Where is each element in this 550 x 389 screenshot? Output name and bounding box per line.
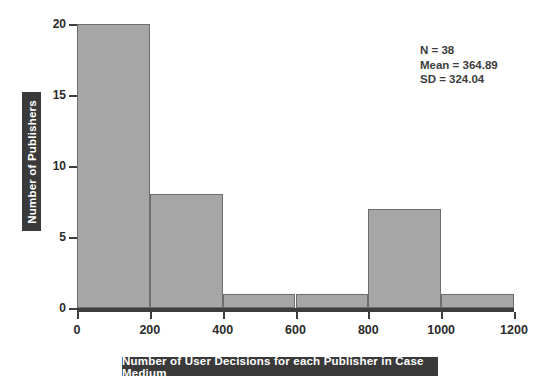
- y-tick-mark: [69, 166, 77, 168]
- x-axis-title: Number of User Decisions for each Publis…: [122, 357, 438, 376]
- x-tick-mark: [150, 312, 152, 319]
- x-tick-mark: [223, 312, 225, 319]
- y-axis-title: Number of Publishers: [22, 92, 41, 231]
- x-tick-label: 800: [358, 323, 379, 337]
- x-tick-mark: [77, 312, 79, 319]
- x-tick-label: 1200: [500, 323, 528, 337]
- x-tick-mark: [368, 312, 370, 319]
- stat-mean: Mean = 364.89: [420, 58, 498, 73]
- y-tick-mark: [69, 308, 77, 310]
- x-tick-label: 0: [74, 323, 81, 337]
- x-tick-mark: [514, 312, 516, 319]
- x-tick-label: 1000: [427, 323, 455, 337]
- y-tick-mark: [69, 95, 77, 97]
- y-tick-label: 10: [53, 159, 66, 173]
- y-tick-label: 20: [53, 17, 66, 31]
- y-tick-label: 0: [59, 301, 66, 315]
- histogram-bar: [368, 209, 441, 308]
- y-axis-title-text: Number of Publishers: [26, 100, 38, 224]
- y-tick-mark: [69, 237, 77, 239]
- x-tick-mark: [296, 312, 298, 319]
- stat-n: N = 38: [420, 43, 498, 58]
- stats-annotation: N = 38 Mean = 364.89 SD = 324.04: [420, 43, 498, 87]
- y-tick-label: 15: [53, 88, 66, 102]
- y-tick-mark: [69, 24, 77, 26]
- histogram-bar: [296, 294, 369, 308]
- x-tick-label: 400: [212, 323, 233, 337]
- histogram-figure: Number of Publishers Number of User Deci…: [0, 0, 550, 389]
- y-tick-label: 5: [59, 230, 66, 244]
- stat-sd: SD = 324.04: [420, 72, 498, 87]
- x-tick-label: 600: [285, 323, 306, 337]
- histogram-bar: [77, 24, 150, 308]
- x-tick-label: 200: [139, 323, 160, 337]
- histogram-bar: [223, 294, 296, 308]
- x-tick-mark: [441, 312, 443, 319]
- histogram-bar: [441, 294, 514, 308]
- x-axis-title-text: Number of User Decisions for each Publis…: [122, 355, 438, 379]
- histogram-bar: [150, 194, 223, 308]
